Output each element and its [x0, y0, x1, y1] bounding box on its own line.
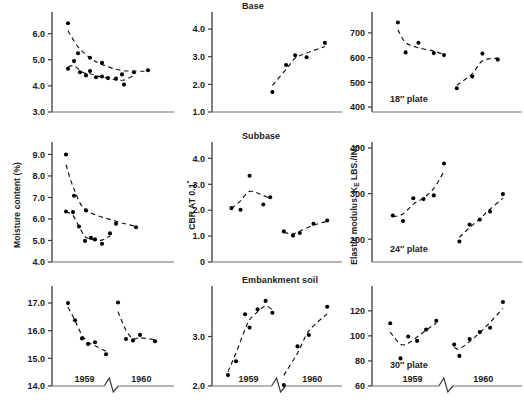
data-point: [138, 333, 142, 337]
data-point: [72, 194, 76, 198]
y-tick-label: 6.0: [32, 214, 45, 224]
year-label-1960: 1960: [131, 374, 151, 384]
chart-panel-moisture-embankment: 14.015.016.017.019591960: [8, 280, 176, 419]
data-point: [72, 59, 76, 63]
y-axis-label-cbr: CBR AT 0.1″: [186, 180, 197, 230]
year-label-1959: 1959: [75, 374, 95, 384]
data-point: [100, 74, 104, 78]
panel-title: Base: [242, 1, 264, 11]
data-point: [401, 219, 405, 223]
plot-cbr-embankment: 2.03.019591960: [176, 280, 344, 419]
y-tick-label: 700: [350, 28, 365, 38]
y-tick-label: 5.0: [32, 55, 45, 65]
data-point: [488, 326, 492, 330]
data-point: [470, 75, 474, 79]
plot-cbr-subbase: 01.02.03.04.0: [176, 140, 344, 280]
trend-line-1960: [457, 58, 498, 85]
y-axis-label-moisture: Moisture content (%): [12, 162, 22, 248]
y-tick-label: 4.0: [192, 24, 205, 34]
data-point: [432, 51, 436, 55]
data-point: [66, 21, 70, 25]
data-point: [226, 373, 230, 377]
data-point: [282, 229, 286, 233]
data-point: [268, 195, 272, 199]
chart-panel-cbr-base: 1.02.03.04.0Base: [176, 4, 344, 140]
data-point: [100, 242, 104, 246]
data-point: [73, 318, 77, 322]
data-point: [93, 340, 97, 344]
data-point: [80, 336, 84, 340]
data-point: [478, 330, 482, 334]
plot-moisture-base: 3.04.05.06.0: [8, 4, 176, 140]
data-point: [66, 67, 70, 71]
data-point: [120, 72, 124, 76]
data-point: [404, 50, 408, 54]
trend-line-1960: [118, 312, 155, 340]
data-point: [305, 55, 309, 59]
figure-container: 3.04.05.06.01.02.03.04.0Base400500600700…: [0, 0, 524, 419]
data-point: [116, 300, 120, 304]
data-point: [406, 334, 410, 338]
y-tick-label: 100: [350, 331, 365, 341]
data-point: [84, 73, 88, 77]
year-label-1960: 1960: [302, 374, 322, 384]
data-point: [298, 231, 302, 235]
data-point: [84, 208, 88, 212]
data-point: [388, 321, 392, 325]
data-point: [468, 337, 472, 341]
data-point: [229, 206, 233, 210]
data-point: [391, 213, 395, 217]
data-point: [78, 70, 82, 74]
data-point: [256, 307, 260, 311]
data-point: [248, 326, 252, 330]
data-point: [457, 354, 461, 358]
data-point: [88, 69, 92, 73]
data-point: [122, 83, 126, 87]
chart-panel-moisture-subbase: 4.05.06.07.08.09.0: [8, 140, 176, 280]
trend-line-1960: [68, 31, 148, 72]
data-point: [480, 52, 484, 56]
chart-panel-moisture-base: 3.04.05.06.0: [8, 4, 176, 140]
data-point: [270, 311, 274, 315]
data-point: [134, 225, 138, 229]
plot-moisture-embankment: 14.015.016.017.019591960: [8, 280, 176, 419]
data-point: [86, 342, 90, 346]
data-point: [243, 312, 247, 316]
y-tick-label: 60: [355, 381, 365, 391]
data-point: [234, 359, 238, 363]
data-point: [114, 77, 118, 81]
data-point: [264, 299, 268, 303]
y-tick-label: 4.0: [192, 154, 205, 164]
plate-annotation: 18″ plate: [390, 94, 428, 104]
plate-annotation: 24″ plate: [390, 244, 428, 254]
data-point: [270, 90, 274, 94]
data-point: [468, 223, 472, 227]
year-label-1959: 1959: [239, 374, 259, 384]
data-point: [64, 152, 68, 156]
panel-title: Embankment soil: [242, 275, 318, 285]
data-point: [284, 63, 288, 67]
y-tick-label: 17.0: [27, 298, 45, 308]
data-point: [291, 234, 295, 238]
data-point: [442, 161, 446, 165]
data-point: [478, 218, 482, 222]
data-point: [501, 192, 505, 196]
data-point: [108, 231, 112, 235]
y-tick-label: 0: [200, 257, 205, 267]
data-point: [501, 300, 505, 304]
plot-modulus-subbase: 20030040024″ plate: [344, 140, 524, 280]
y-tick-label: 14.0: [27, 381, 45, 391]
plot-cbr-base: 1.02.03.04.0: [176, 4, 344, 140]
data-point: [307, 333, 311, 337]
chart-panel-modulus-embankment: 60801001201959196030″ plate: [344, 280, 524, 419]
y-tick-label: 1.0: [192, 231, 205, 241]
data-point: [64, 209, 68, 213]
y-tick-label: 8.0: [32, 171, 45, 181]
y-tick-label: 7.0: [32, 193, 45, 203]
trend-line-1960: [66, 165, 136, 227]
y-tick-label: 6.0: [32, 29, 45, 39]
trend-line-1959: [390, 323, 436, 345]
y-tick-label: 500: [350, 78, 365, 88]
trend-line-1960: [284, 314, 327, 376]
trend-line-1959: [393, 172, 444, 217]
